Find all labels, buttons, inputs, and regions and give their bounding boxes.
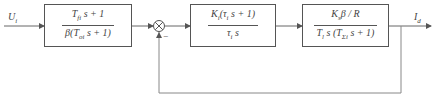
pi-numerator: Ki(τi s + 1) xyxy=(208,8,258,25)
pi-denominator: τi s xyxy=(224,26,242,43)
filter-numerator: Tfi s + 1 xyxy=(69,8,108,25)
feedback-sign: − xyxy=(163,31,168,41)
pi-controller-block: Ki(τi s + 1) τi s xyxy=(190,4,276,47)
filter-block: Tfi s + 1 β(Toi s + 1) xyxy=(44,4,132,47)
output-label: Id xyxy=(414,11,421,25)
plant-denominator: Tl s (TΣi s + 1) xyxy=(314,26,378,43)
plant-block: Ksβ / R Tl s (TΣi s + 1) xyxy=(302,4,389,47)
input-label: Ui xyxy=(8,11,17,25)
filter-denominator: β(Toi s + 1) xyxy=(62,26,114,43)
plant-numerator: Ksβ / R xyxy=(328,8,362,25)
